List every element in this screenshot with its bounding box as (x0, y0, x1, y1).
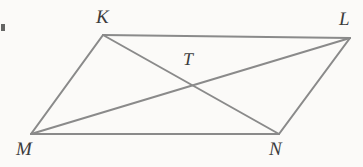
intersection-label-T: T (183, 50, 193, 68)
edge-M-K (31, 35, 103, 134)
vertex-label-K: K (96, 8, 109, 27)
vertex-label-M: M (16, 140, 32, 159)
vertex-label-N: N (269, 140, 282, 159)
vertex-label-L: L (339, 10, 350, 29)
parallelogram-diagram (0, 0, 363, 167)
edge-L-N (279, 38, 350, 134)
geometry-figure: K L N M T (0, 0, 363, 167)
edge-K-L (103, 35, 350, 38)
